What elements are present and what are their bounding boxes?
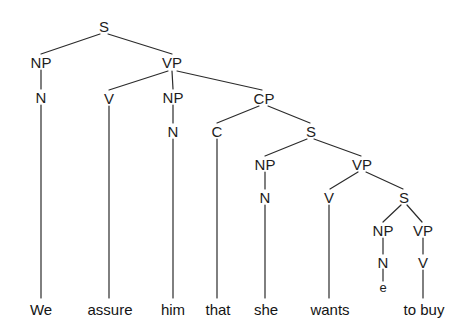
tree-node-v: V — [104, 91, 114, 106]
tree-edge — [268, 106, 310, 123]
tree-node-vp: VP — [162, 55, 182, 70]
leaf-word: she — [254, 302, 278, 317]
leaf-word: wants — [310, 302, 349, 317]
tree-node-s: S — [306, 124, 316, 139]
tree-edge — [172, 71, 173, 89]
tree-edges-layer — [0, 0, 465, 335]
tree-node-np: NP — [30, 55, 51, 70]
leaf-word: assure — [87, 302, 132, 317]
tree-node-np: NP — [254, 157, 275, 172]
tree-node-c: C — [212, 124, 223, 139]
tree-node-np: NP — [372, 223, 393, 238]
tree-edge — [109, 71, 168, 90]
tree-node-np: NP — [162, 90, 183, 105]
tree-edge — [217, 106, 259, 123]
tree-node-vp: VP — [352, 157, 372, 172]
leaf-word: We — [30, 302, 52, 317]
tree-node-v: V — [418, 255, 428, 270]
tree-node-s: S — [399, 190, 409, 205]
tree-edge — [177, 71, 262, 90]
tree-edge — [265, 139, 307, 156]
tree-node-n: N — [168, 124, 179, 139]
tree-edge — [383, 205, 401, 222]
tree-edge — [108, 34, 172, 54]
empty-category-trace: e — [379, 281, 386, 294]
tree-node-n: N — [36, 90, 47, 105]
tree-edge — [407, 205, 422, 222]
tree-node-n: N — [378, 255, 389, 270]
tree-node-s: S — [99, 19, 109, 34]
syntax-tree-figure: SNPVPNVNPCPNCSNPVPNVSNPVPNVe Weassurehim… — [0, 0, 465, 335]
tree-edge — [314, 139, 361, 156]
tree-edge — [41, 34, 100, 54]
tree-node-cp: CP — [253, 91, 274, 106]
leaf-word: to buy — [404, 302, 445, 317]
tree-node-v: V — [324, 190, 334, 205]
tree-node-n: N — [260, 190, 271, 205]
leaf-word: that — [205, 302, 230, 317]
tree-edge — [330, 172, 358, 189]
leaf-word: him — [161, 302, 185, 317]
tree-node-vp: VP — [413, 223, 433, 238]
tree-edge — [366, 172, 403, 189]
